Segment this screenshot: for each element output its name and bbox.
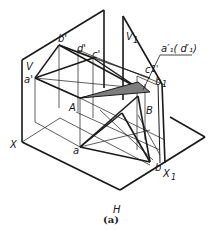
point-b1-prime-subscript: 1 (162, 80, 167, 89)
point-a-prime: a' (24, 74, 33, 85)
point-B: B (146, 105, 153, 116)
shaded-face (80, 82, 150, 98)
point-a: a (73, 145, 79, 156)
point-b: b (155, 162, 161, 173)
point-c-prime: c' (92, 49, 100, 60)
x1-axis-subscript: 1 (171, 173, 176, 182)
point-c1-prime-mark: 1' (151, 65, 158, 74)
callout-a1-d1-label: a′₁( d′₁) (161, 43, 197, 54)
point-b-prime: b' (58, 33, 67, 44)
point-b1-prime: b (155, 76, 161, 87)
v1-plane-subscript: 1 (133, 36, 138, 45)
v-plane (22, 10, 104, 142)
point-A: A (68, 102, 76, 113)
x1-axis-label: X (162, 168, 171, 179)
figure-caption: (a) (103, 214, 119, 225)
x-axis-label: X (9, 139, 18, 150)
point-d-prime: d' (77, 43, 86, 54)
projection-diagram: V V 1 H X X 1 a' b' d' c' A B a b c 1' b… (0, 0, 215, 230)
h-projection-edges (80, 96, 150, 162)
v-plane-label: V (26, 61, 34, 72)
